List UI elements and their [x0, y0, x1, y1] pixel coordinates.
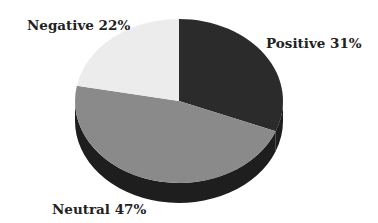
pie-chart: Positive 31% Neutral 47% Negative 22% — [0, 0, 378, 223]
label-negative: Negative 22% — [27, 17, 130, 33]
label-neutral: Neutral 47% — [52, 201, 146, 217]
pie-top-face — [75, 19, 283, 183]
label-positive: Positive 31% — [266, 35, 362, 51]
